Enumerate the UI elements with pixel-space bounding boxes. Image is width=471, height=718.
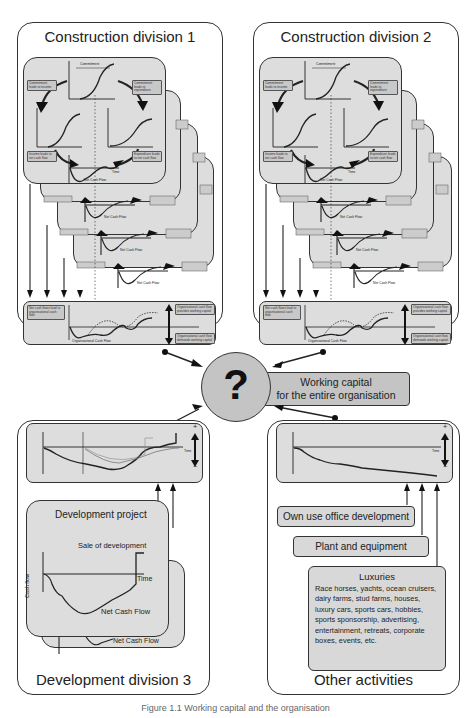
minus-sign: − [443,463,447,470]
own-use-office-development-box: Own use office development [277,506,415,527]
plus-sign: + [443,423,447,430]
luxuries-list: Race horses, yachts, ocean cruisers, dai… [315,584,439,646]
figure-caption: Figure 1.1 Working capital and the organ… [0,703,471,713]
time-label: Time [432,449,439,453]
luxuries-title: Luxuries [315,571,439,582]
plant-and-equipment-box: Plant and equipment [293,536,429,557]
luxuries-box: Luxuries Race horses, yachts, ocean crui… [308,566,446,671]
